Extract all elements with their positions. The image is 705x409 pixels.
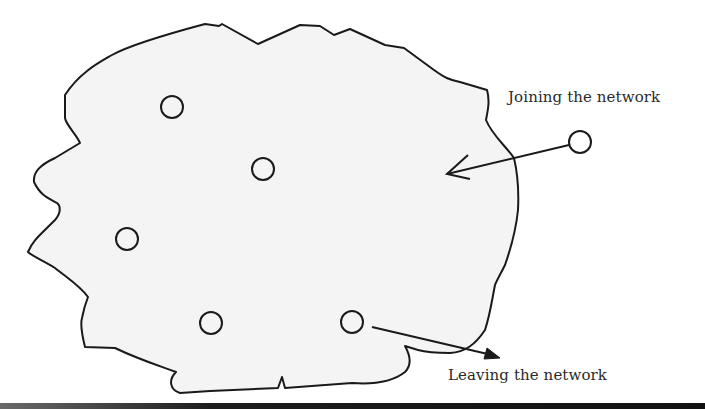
network-region (28, 24, 518, 393)
joining-label: Joining the network (508, 88, 660, 106)
node-joining (569, 131, 591, 153)
leaving-label: Leaving the network (448, 366, 607, 384)
bottom-border (0, 403, 705, 409)
network-diagram (0, 0, 705, 409)
leaving-arrow-head-icon (484, 348, 500, 359)
